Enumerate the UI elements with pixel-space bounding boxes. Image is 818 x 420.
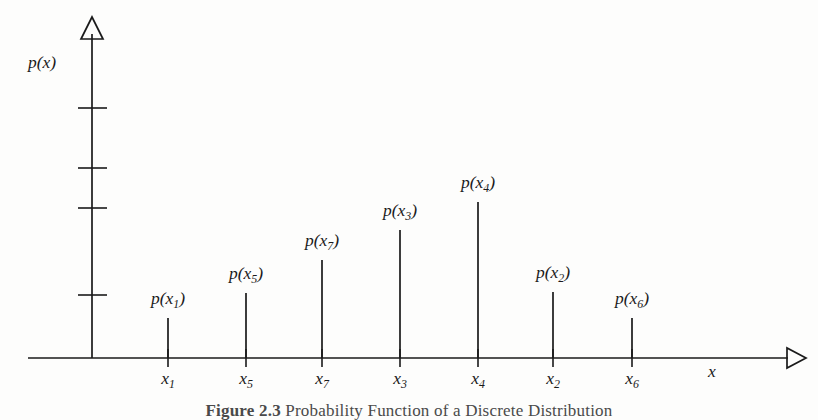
x-tick-label-x1: x1 [161, 370, 175, 390]
y-axis-label: p(x) [28, 54, 56, 72]
figure-container: p(x1)x1p(x5)x5p(x7)x7p(x3)x3p(x4)x4p(x2)… [0, 0, 818, 420]
x-axis-label: x [708, 363, 716, 381]
stem-value-label-x1: p(x1) [151, 290, 185, 310]
stem-value-label-x2: p(x2) [536, 264, 570, 284]
x-tick-label-x2: x2 [546, 370, 560, 390]
x-tick-label-x6: x6 [625, 370, 639, 390]
caption-title: Probability Function of a Discrete Distr… [285, 401, 612, 420]
x-tick-label-x7: x7 [315, 370, 329, 390]
figure-caption: Figure 2.3 Probability Function of a Dis… [0, 401, 818, 420]
stem-value-label-x6: p(x6) [615, 290, 649, 310]
stem-value-label-x4: p(x4) [461, 174, 495, 194]
x-tick-label-x3: x3 [393, 370, 407, 390]
x-tick-label-x5: x5 [239, 370, 253, 390]
stem-value-label-x3: p(x3) [383, 202, 417, 222]
axes-group [28, 17, 806, 368]
caption-number: Figure 2.3 [206, 401, 281, 420]
stem-value-label-x7: p(x7) [305, 232, 339, 252]
x-axis-arrowhead-icon [787, 348, 806, 368]
stem-value-label-x5: p(x5) [229, 265, 263, 285]
x-tick-label-x4: x4 [471, 370, 485, 390]
